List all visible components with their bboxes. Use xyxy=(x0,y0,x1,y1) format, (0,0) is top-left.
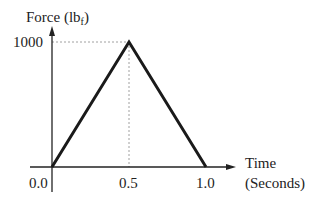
y-tick-1000: 1000 xyxy=(13,34,43,50)
y-axis-label: Force (lbf) xyxy=(26,9,89,27)
force-time-chart: Force (lbf) 1000 0.0 0.5 1.0 Time (Secon… xyxy=(0,0,317,203)
x-tick-0.5: 0.5 xyxy=(119,175,138,191)
force-series-line xyxy=(52,42,206,167)
x-tick-1.0: 1.0 xyxy=(196,175,215,191)
x-axis-label-line2: (Seconds) xyxy=(245,175,305,192)
x-axis-arrow-icon xyxy=(226,164,236,170)
x-axis-label-line1: Time xyxy=(245,155,276,171)
y-axis-arrow-icon xyxy=(49,26,55,36)
x-tick-0: 0.0 xyxy=(29,175,48,191)
